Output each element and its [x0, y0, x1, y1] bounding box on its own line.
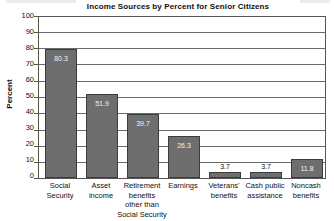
x-axis-labels: Social Security Asset income Retirement …	[38, 181, 326, 221]
bar-group-social-security: 80.3	[45, 17, 77, 178]
y-tick-label: 50	[10, 91, 34, 101]
y-tick-label: 0	[10, 171, 34, 181]
scan-artifact	[300, 0, 330, 3]
y-tick-label: 60	[10, 75, 34, 85]
bar-value-retirement-benefits: 39.7	[127, 119, 159, 128]
bar-group-asset-income: 51.9	[86, 17, 118, 178]
x-label-line: benefits	[274, 191, 334, 201]
plot-area: 80.3 51.9 39.7 26.3 3.7 3.7	[38, 16, 326, 179]
x-label-line: Noncash	[274, 181, 334, 191]
chart-title: Income Sources by Percent for Senior Cit…	[66, 1, 290, 13]
y-tick-label: 90	[10, 27, 34, 37]
bar-chart-figure: Income Sources by Percent for Senior Cit…	[0, 0, 334, 221]
bar-group-cash-public-assistance: 3.7	[250, 17, 282, 178]
y-tick-label: 40	[10, 107, 34, 117]
y-tick-label: 100	[10, 11, 34, 21]
y-tick-label: 20	[10, 139, 34, 149]
bars-layer: 80.3 51.9 39.7 26.3 3.7 3.7	[39, 17, 325, 178]
bar-value-noncash-benefits: 11.8	[291, 164, 323, 173]
y-tick-label: 30	[10, 123, 34, 133]
y-tick-label: 80	[10, 43, 34, 53]
bar-group-veterans-benefits: 3.7	[209, 17, 241, 178]
y-tick-label: 10	[10, 155, 34, 165]
bar-veterans-benefits[interactable]	[209, 172, 241, 178]
bar-value-social-security: 80.3	[45, 54, 77, 63]
x-label-noncash-benefits: Noncash benefits	[274, 181, 334, 200]
bar-group-noncash-benefits: 11.8	[291, 17, 323, 178]
bar-value-cash-public-assistance: 3.7	[250, 162, 282, 171]
bar-group-retirement-benefits: 39.7	[127, 17, 159, 178]
bar-social-security[interactable]	[45, 49, 77, 178]
y-tick-label: 70	[10, 59, 34, 69]
bar-value-earnings: 26.3	[168, 141, 200, 150]
bar-cash-public-assistance[interactable]	[250, 172, 282, 178]
bar-value-veterans-benefits: 3.7	[209, 162, 241, 171]
bar-group-earnings: 26.3	[168, 17, 200, 178]
x-label-line: Social Security	[110, 210, 174, 220]
bar-value-asset-income: 51.9	[86, 99, 118, 108]
x-label-line: other than	[110, 200, 174, 210]
x-label-line: benefits	[110, 191, 174, 201]
